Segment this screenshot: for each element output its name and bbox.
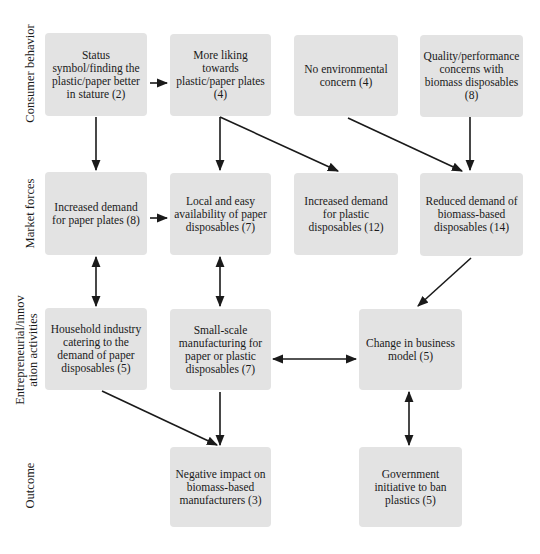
node-status-symbol: Status symbol/finding the plastic/paper … (45, 33, 147, 116)
node-more-liking: More liking towards plastic/paper plates… (170, 34, 271, 116)
arrow-reduced-to-business (418, 258, 471, 306)
node-no-environmental-concern: No environmental concern (4) (294, 35, 398, 116)
arrow-household-to-negative (102, 391, 217, 445)
node-government-initiative: Government initiative to ban plastics (5… (359, 447, 462, 527)
node-negative-impact: Negative impact on biomass-based manufac… (170, 447, 271, 527)
node-change-business-model: Change in business model (5) (359, 309, 462, 390)
node-quality-concerns: Quality/performance concerns with biomas… (420, 35, 523, 117)
node-reduced-demand-biomass: Reduced demand of biomass-based disposab… (420, 173, 523, 256)
arrow-liking-to-plastic-demand (220, 117, 338, 171)
node-small-scale-manufacturing: Small-scale manufacturing for paper or p… (170, 309, 271, 390)
node-increased-demand-plastic: Increased demand for plastic disposables… (294, 173, 398, 255)
node-household-industry: Household industry catering to the deman… (45, 308, 147, 390)
node-local-availability: Local and easy availability of paper dis… (170, 173, 271, 255)
arrow-noconcern-to-reduced (348, 118, 462, 171)
node-increased-demand-paper: Increased demand for paper plates (8) (45, 172, 147, 255)
